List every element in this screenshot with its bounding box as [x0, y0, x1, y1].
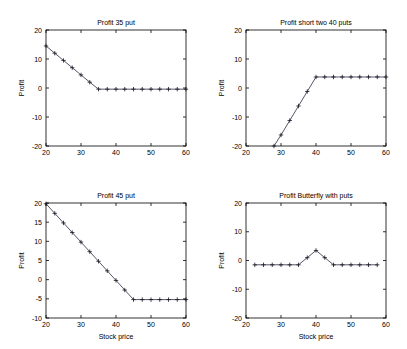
data-series-line-top-right: [274, 77, 386, 146]
y-tick-label-top-right-4: 20: [234, 27, 242, 34]
data-series-line-bottom-right: [255, 250, 378, 264]
data-series-line-bottom-left: [46, 204, 186, 300]
chart-title-bottom-left: Profit 45 put: [97, 192, 135, 200]
x-tick-label-top-left-2: 40: [112, 149, 120, 156]
y-tick-label-bottom-left-3: 5: [38, 257, 42, 264]
x-tick-label-bottom-right-4: 60: [382, 321, 390, 328]
y-tick-label-top-right-0: -20: [232, 143, 242, 150]
figure-canvas: 2030405060-20-1001020Profit 35 putProfit…: [0, 0, 407, 349]
plot-frame-top-left: [46, 30, 186, 146]
x-tick-label-bottom-right-3: 50: [347, 321, 355, 328]
chart-svg-top-right: 2030405060-20-1001020Profit short two 40…: [0, 0, 407, 349]
x-axis-label-bottom-left: Stock price: [99, 333, 134, 341]
y-tick-label-top-right-3: 10: [234, 56, 242, 63]
y-tick-label-bottom-left-2: 0: [38, 276, 42, 283]
y-tick-label-bottom-left-5: 15: [34, 219, 42, 226]
y-tick-label-top-right-2: 0: [238, 85, 242, 92]
x-tick-label-top-right-0: 20: [242, 149, 250, 156]
x-tick-label-top-left-3: 50: [147, 149, 155, 156]
y-tick-label-bottom-left-1: -5: [36, 295, 42, 302]
y-tick-label-bottom-right-1: -10: [232, 286, 242, 293]
chart-panel-bottom-left: 2030405060-10-505101520Profit 45 putProf…: [0, 0, 407, 349]
x-tick-label-bottom-left-2: 40: [112, 321, 120, 328]
chart-svg-top-left: 2030405060-20-1001020Profit 35 putProfit: [0, 0, 407, 349]
y-tick-label-bottom-right-2: 0: [238, 257, 242, 264]
y-tick-label-top-left-4: 20: [34, 27, 42, 34]
chart-title-top-right: Profit short two 40 puts: [280, 19, 352, 27]
x-tick-label-bottom-right-0: 20: [242, 321, 250, 328]
data-markers-bottom-right: [253, 248, 380, 267]
y-tick-label-bottom-right-4: 20: [234, 200, 242, 207]
data-markers-top-left: [44, 44, 188, 92]
y-axis-label-bottom-left: Profit: [18, 252, 25, 268]
plot-frame-bottom-left: [46, 203, 186, 318]
y-tick-label-top-left-1: -10: [32, 114, 42, 121]
x-axis-label-bottom-right: Stock price: [299, 333, 334, 341]
data-series-line-top-left: [46, 46, 186, 89]
plot-frame-bottom-right: [246, 203, 386, 318]
chart-panel-top-left: 2030405060-20-1001020Profit 35 putProfit: [0, 0, 407, 349]
y-tick-label-bottom-left-6: 20: [34, 200, 42, 207]
x-tick-label-top-left-0: 20: [42, 149, 50, 156]
x-tick-label-bottom-left-1: 30: [77, 321, 85, 328]
y-tick-label-bottom-left-0: -10: [32, 315, 42, 322]
data-markers-bottom-left: [44, 202, 188, 302]
x-tick-label-top-right-3: 50: [347, 149, 355, 156]
x-tick-label-bottom-right-1: 30: [277, 321, 285, 328]
y-axis-label-top-right: Profit: [218, 80, 225, 96]
y-tick-label-top-right-1: -10: [232, 114, 242, 121]
data-markers-top-right: [272, 75, 388, 148]
x-tick-label-top-left-1: 30: [77, 149, 85, 156]
plot-frame-top-right: [246, 30, 386, 146]
x-tick-label-bottom-left-4: 60: [182, 321, 190, 328]
y-tick-label-bottom-left-4: 10: [34, 238, 42, 245]
y-tick-label-top-left-2: 0: [38, 85, 42, 92]
chart-title-top-left: Profit 35 put: [97, 19, 135, 27]
x-tick-label-top-right-2: 40: [312, 149, 320, 156]
x-tick-label-top-right-4: 60: [382, 149, 390, 156]
y-tick-label-top-left-0: -20: [32, 143, 42, 150]
y-axis-label-top-left: Profit: [18, 80, 25, 96]
y-tick-label-top-left-3: 10: [34, 56, 42, 63]
x-tick-label-bottom-right-2: 40: [312, 321, 320, 328]
chart-title-bottom-right: Profit Butterfly with puts: [279, 192, 353, 200]
y-tick-label-bottom-right-0: -20: [232, 315, 242, 322]
x-tick-label-bottom-left-3: 50: [147, 321, 155, 328]
chart-svg-bottom-left: 2030405060-10-505101520Profit 45 putProf…: [0, 0, 407, 349]
x-tick-label-bottom-left-0: 20: [42, 321, 50, 328]
y-tick-label-bottom-right-3: 10: [234, 228, 242, 235]
x-tick-label-top-right-1: 30: [277, 149, 285, 156]
chart-panel-bottom-right: 2030405060-20-1001020Profit Butterfly wi…: [0, 0, 407, 349]
chart-panel-top-right: 2030405060-20-1001020Profit short two 40…: [0, 0, 407, 349]
y-axis-label-bottom-right: Profit: [218, 252, 225, 268]
x-tick-label-top-left-4: 60: [182, 149, 190, 156]
chart-svg-bottom-right: 2030405060-20-1001020Profit Butterfly wi…: [0, 0, 407, 349]
